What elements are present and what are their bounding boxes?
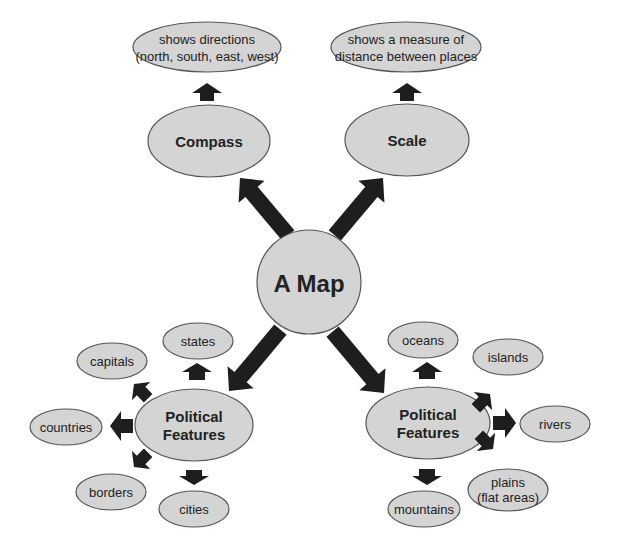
rivers-node: rivers: [520, 406, 590, 442]
compass-node: Compass: [148, 105, 270, 177]
center-label: A Map: [273, 270, 344, 297]
scale-description-line2: distance between places: [335, 49, 478, 64]
cities-label: cities: [179, 502, 209, 517]
political-right-label-line2: Features: [397, 424, 460, 441]
compass-description-node: shows directions (north, south, east, we…: [133, 22, 281, 72]
borders-node: borders: [76, 474, 146, 510]
mountains-label: mountains: [394, 502, 454, 517]
borders-label: borders: [89, 485, 134, 500]
compass-label: Compass: [175, 133, 243, 150]
plains-node: plains (flat areas): [468, 469, 548, 511]
concept-map: shows directions (north, south, east, we…: [0, 0, 621, 558]
countries-label: countries: [40, 420, 93, 435]
arrow-to-rivers-icon: [493, 408, 516, 438]
political-left-label-line2: Features: [163, 426, 226, 443]
political-left-label-line1: Political: [165, 408, 223, 425]
arrow-to-political-right-icon: [320, 321, 397, 404]
oceans-label: oceans: [402, 333, 444, 348]
countries-node: countries: [30, 409, 102, 445]
plains-label-line2: (flat areas): [477, 490, 539, 505]
arrow-to-mountains-icon: [412, 469, 442, 485]
oceans-node: oceans: [388, 322, 458, 358]
plains-label-line1: plains: [491, 475, 525, 490]
political-right-label-line1: Political: [399, 406, 457, 423]
compass-description-line1: shows directions: [159, 32, 256, 47]
center-node: A Map: [257, 230, 361, 334]
cities-node: cities: [159, 491, 229, 527]
islands-node: islands: [473, 339, 543, 375]
arrow-to-countries-icon: [110, 411, 133, 441]
arrow-scale-up-icon: [392, 83, 422, 101]
islands-label: islands: [488, 350, 529, 365]
political-left-node: Political Features: [135, 389, 253, 461]
scale-label: Scale: [387, 132, 426, 149]
arrow-to-cities-icon: [179, 470, 209, 485]
compass-description-line2: (north, south, east, west): [135, 49, 278, 64]
scale-description-line1: shows a measure of: [348, 32, 465, 47]
capitals-label: capitals: [90, 354, 135, 369]
rivers-label: rivers: [539, 417, 571, 432]
scale-node: Scale: [345, 104, 469, 176]
states-label: states: [181, 334, 216, 349]
arrow-to-oceans-icon: [412, 362, 442, 379]
arrow-to-scale-icon: [322, 167, 396, 246]
capitals-node: capitals: [77, 343, 147, 379]
states-node: states: [163, 323, 233, 359]
scale-description-node: shows a measure of distance between plac…: [331, 22, 481, 72]
arrow-compass-up-icon: [192, 83, 222, 101]
political-right-node: Political Features: [366, 387, 490, 459]
arrow-to-states-icon: [182, 363, 212, 380]
mountains-node: mountains: [388, 491, 460, 527]
